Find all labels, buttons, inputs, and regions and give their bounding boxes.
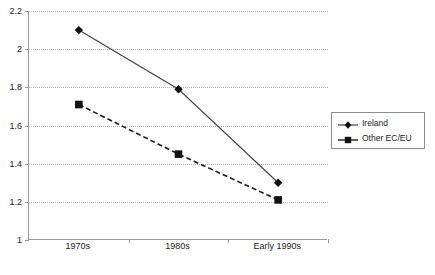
y-tick-label: 2: [0, 44, 22, 54]
square-marker-icon: [337, 132, 359, 144]
series-line-ireland: [79, 30, 278, 183]
data-point-other-ec-eu-1970s[interactable]: [75, 101, 83, 109]
series-layer: [29, 11, 328, 240]
legend-item-ireland[interactable]: Ireland: [337, 116, 388, 130]
plot-area: [28, 11, 327, 240]
diamond-marker-icon: [337, 117, 359, 129]
y-tick-mark: [25, 240, 29, 241]
x-tick-label-1970s: 1970s: [66, 241, 91, 251]
x-tick-label-early-1990s: Early 1990s: [253, 241, 301, 251]
y-tick-label: 1: [0, 235, 22, 245]
legend-label-ireland: Ireland: [362, 118, 388, 128]
y-tick-label: 1.4: [0, 159, 22, 169]
x-tick-label-1980s: 1980s: [165, 241, 190, 251]
data-point-other-ec-eu-early-1990s[interactable]: [274, 196, 282, 204]
chart-legend: Ireland Other EC/EU: [331, 112, 425, 149]
line-chart: 11.21.41.61.822.2 1970s1980sEarly 1990s …: [0, 0, 435, 275]
y-tick-label: 1.6: [0, 121, 22, 131]
y-tick-label: 1.2: [0, 197, 22, 207]
y-tick-label: 1.8: [0, 82, 22, 92]
x-tick-mark: [328, 239, 329, 243]
data-point-ireland-1970s[interactable]: [75, 26, 83, 34]
data-point-other-ec-eu-1980s[interactable]: [175, 150, 183, 158]
legend-item-other-ec-eu[interactable]: Other EC/EU: [337, 131, 412, 145]
legend-label-other-ec-eu: Other EC/EU: [362, 133, 412, 143]
y-tick-label: 2.2: [0, 6, 22, 16]
